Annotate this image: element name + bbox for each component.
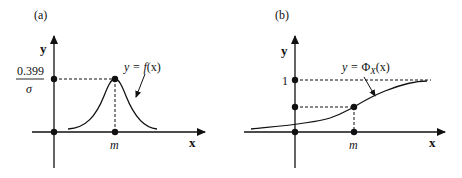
panel-b-y-label: y [281, 43, 288, 58]
panel-b-curve-label-arg: (x) [376, 60, 390, 74]
panel-a-yaxis-dot [51, 76, 57, 82]
figure: (a) y x m 0.399 σ y = f(x) (b) y [0, 0, 462, 178]
panel-a-peak-denominator: σ [26, 82, 33, 96]
panel-b-one-dot [292, 77, 298, 83]
panel-b-tag: (b) [275, 8, 289, 22]
panel-a-origin-dot [51, 129, 57, 135]
panel-a-curve-label: y = f(x) [123, 60, 161, 74]
panel-a-curve-label-arg: (x) [147, 60, 161, 74]
panel-a-peak-numerator: 0.399 [17, 64, 44, 78]
panel-a-tag: (a) [34, 8, 47, 22]
panel-b-cdf-curve [251, 81, 427, 129]
panel-a-x-label: x [189, 135, 196, 150]
panel-a-pdf: (a) y x m 0.399 σ y = f(x) [16, 8, 205, 168]
panel-b-curve-label-prefix: y = [341, 60, 361, 74]
panel-b-curve-label: y = ΦX(x) [341, 60, 390, 76]
panel-b-mean-dot [351, 129, 357, 135]
panel-a-pointer-arrow-icon [136, 74, 145, 97]
panel-b-pointer-arrow-icon [364, 77, 375, 96]
panel-b-x-label: x [429, 135, 436, 150]
panel-a-pdf-curve [68, 79, 157, 129]
panel-b-one-label: 1 [282, 74, 288, 88]
panel-a-mean-dot [112, 129, 118, 135]
panel-b-m-label: m [349, 138, 358, 152]
panel-b-origin-dot [292, 129, 298, 135]
panel-a-m-label: m [110, 138, 119, 152]
panel-a-curve-label-prefix: y = [123, 60, 143, 74]
panel-b-half-yaxis-dot [292, 104, 298, 110]
panel-a-y-label: y [40, 41, 47, 56]
panel-a-peak-dot [112, 76, 118, 82]
panel-b-curve-label-func: Φ [361, 60, 370, 74]
panel-b-cdf: (b) y x m 1 y = ΦX(x) [244, 8, 445, 168]
panel-b-median-dot [351, 104, 357, 110]
